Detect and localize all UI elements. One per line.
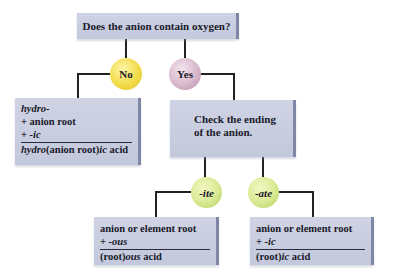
check-ending-box: Check the ending of the anion.: [170, 100, 296, 157]
ous-result-line: (root)ous acid: [100, 249, 210, 263]
yes-decision-node: Yes: [169, 58, 201, 90]
connector-question-to-yes: [184, 39, 186, 58]
plus-sign: +: [256, 236, 265, 247]
connector-no-to-left-v: [77, 73, 79, 99]
ate-root-line: anion or element root: [256, 222, 365, 235]
result-acid: acid: [107, 144, 128, 155]
ite-decision-node: -ite: [191, 177, 222, 208]
connector-ate-to-box-h: [277, 191, 313, 193]
hydro-rule-box: hydro- + anion root + -ic hydro(anion ro…: [15, 98, 141, 165]
result-hydro: hydro: [21, 144, 46, 155]
result-anion-root: (anion root): [46, 144, 99, 155]
connector-no-to-left-h: [77, 73, 111, 75]
result-ic: ic: [99, 144, 107, 155]
ic-suffix: -ic: [265, 236, 276, 247]
result-root: (root): [100, 251, 125, 262]
check-ending-line1: Check the ending: [194, 113, 293, 126]
connector-ite-to-box-v: [155, 191, 157, 218]
ic-suffix: -ic: [30, 129, 41, 140]
question-box: Does the anion contain oxygen?: [77, 13, 239, 39]
no-decision-node: No: [110, 58, 142, 90]
connector-yes-to-mid-v: [233, 73, 235, 101]
ous-suffix: -ous: [109, 236, 128, 247]
ate-decision-node: -ate: [248, 177, 279, 208]
ite-root-line: anion or element root: [100, 222, 210, 235]
hydro-prefix-line: hydro-: [21, 102, 132, 115]
result-root: (root): [256, 251, 281, 262]
result-ic: ic: [281, 251, 289, 262]
ous-suffix-line: + -ous: [100, 235, 210, 248]
yes-label: Yes: [177, 68, 193, 80]
no-label: No: [119, 68, 132, 80]
connector-ite-to-box-h: [155, 191, 192, 193]
connector-question-to-no: [125, 39, 127, 58]
connector-mid-to-ite: [204, 157, 206, 178]
plus-sign: +: [21, 129, 30, 140]
ite-label: -ite: [199, 187, 214, 199]
result-acid: acid: [141, 251, 162, 262]
ic-suffix-line: + -ic: [21, 128, 132, 141]
connector-yes-to-mid-h: [200, 73, 234, 75]
ate-label: -ate: [255, 187, 272, 199]
result-acid: acid: [289, 251, 310, 262]
anion-root-line: + anion root: [21, 115, 132, 128]
ic-rule-box: anion or element root + -ic (root)ic aci…: [250, 217, 374, 265]
check-ending-line2: of the anion.: [194, 126, 293, 139]
ic-suffix-line: + -ic: [256, 235, 365, 248]
result-ous: ous: [125, 251, 140, 262]
plus-sign: +: [100, 236, 109, 247]
ous-rule-box: anion or element root + -ous (root)ous a…: [94, 217, 219, 265]
connector-ate-to-box-v: [312, 191, 314, 218]
question-text: Does the anion contain oxygen?: [83, 20, 231, 33]
connector-mid-to-ate: [262, 157, 264, 178]
ic-result-line: (root)ic acid: [256, 249, 365, 263]
hydro-result-line: hydro(anion root)ic acid: [21, 142, 132, 156]
